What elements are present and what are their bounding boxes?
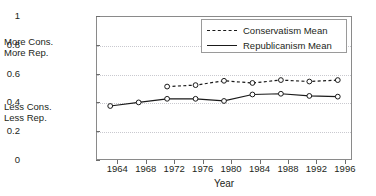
data-point-marker bbox=[222, 99, 227, 104]
data-point-marker bbox=[250, 92, 255, 97]
legend-item-conservatism: Conservatism Mean bbox=[207, 23, 341, 38]
data-point-marker bbox=[307, 94, 312, 99]
data-point-marker bbox=[193, 96, 198, 101]
data-point-marker bbox=[222, 78, 227, 83]
legend: Conservatism Mean Republicanism Mean bbox=[201, 19, 347, 53]
data-point-marker bbox=[193, 83, 198, 88]
line-chart: 1 0.8 0.6 0.4 0.2 0 1964 1968 1972 1976 … bbox=[0, 0, 376, 196]
solid-line-icon bbox=[207, 45, 237, 46]
data-point-marker bbox=[165, 96, 170, 101]
legend-label-conservatism: Conservatism Mean bbox=[243, 26, 327, 36]
data-point-marker bbox=[165, 84, 170, 89]
data-point-marker bbox=[108, 104, 113, 109]
data-point-marker bbox=[335, 94, 340, 99]
legend-label-republicanism: Republicanism Mean bbox=[243, 41, 332, 51]
data-point-marker bbox=[335, 78, 340, 83]
series-conservatism-mean bbox=[165, 78, 340, 89]
data-point-marker bbox=[136, 100, 141, 105]
series-republicanism-mean bbox=[108, 91, 340, 108]
data-point-marker bbox=[278, 78, 283, 83]
data-point-marker bbox=[250, 81, 255, 86]
data-point-marker bbox=[278, 91, 283, 96]
dashed-line-icon bbox=[207, 30, 237, 31]
legend-item-republicanism: Republicanism Mean bbox=[207, 38, 341, 53]
data-point-marker bbox=[307, 79, 312, 84]
